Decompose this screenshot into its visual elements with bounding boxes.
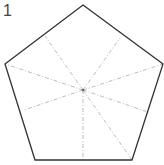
fold-line	[24, 90, 83, 110]
fold-line	[45, 36, 83, 90]
fold-line	[5, 64, 83, 90]
fold-line	[83, 90, 148, 112]
fold-line	[83, 38, 120, 90]
fold-line	[83, 64, 163, 90]
pentagon-diagram	[0, 0, 164, 165]
pentagon-outline	[5, 5, 163, 160]
fold-line	[83, 90, 132, 160]
center-point	[82, 89, 84, 91]
